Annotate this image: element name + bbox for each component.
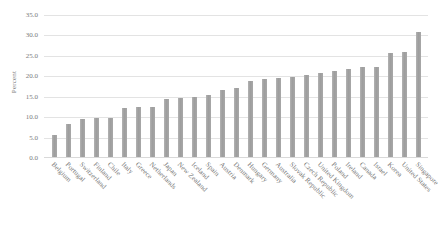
x-label-slot: New Zealand — [173, 160, 187, 235]
bar-slot — [201, 15, 215, 157]
y-axis-tick-label: 0.0 — [29, 154, 38, 162]
bar-slot — [355, 15, 369, 157]
x-label-slot: Poland — [327, 160, 341, 235]
bar-slot — [271, 15, 285, 157]
x-label-slot: Chile — [103, 160, 117, 235]
x-label-slot: Korea — [383, 160, 397, 235]
bar[interactable] — [150, 107, 155, 157]
bar[interactable] — [136, 107, 141, 157]
bar[interactable] — [318, 73, 323, 157]
x-label-slot: United Kingdom — [313, 160, 327, 235]
x-label-slot: Italy — [117, 160, 131, 235]
x-label-slot: Hungary — [243, 160, 257, 235]
bar[interactable] — [374, 67, 379, 157]
bar-slot — [397, 15, 411, 157]
bar-slot — [173, 15, 187, 157]
bar[interactable] — [388, 53, 393, 157]
bar-slot — [117, 15, 131, 157]
x-label-slot: Canada — [355, 160, 369, 235]
bar[interactable] — [178, 98, 183, 157]
bar-slot — [131, 15, 145, 157]
bar-slot — [369, 15, 383, 157]
bar-slot — [243, 15, 257, 157]
x-label-slot: Greece — [131, 160, 145, 235]
bar[interactable] — [108, 118, 113, 157]
bar[interactable] — [52, 135, 57, 157]
bar[interactable] — [304, 75, 309, 157]
plot-area — [44, 15, 428, 158]
bar-slot — [47, 15, 61, 157]
bar[interactable] — [402, 52, 407, 157]
x-label-slot: Belgium — [47, 160, 61, 235]
y-axis-tick-label: 35.0 — [26, 11, 38, 19]
y-axis-tick-label: 10.0 — [26, 113, 38, 121]
bar[interactable] — [360, 67, 365, 157]
bar[interactable] — [94, 118, 99, 157]
y-axis-tick-labels: 35.030.025.020.015.010.05.00.0 — [0, 0, 40, 235]
x-label-slot: Spain — [201, 160, 215, 235]
bar-slot — [285, 15, 299, 157]
bar-slot — [327, 15, 341, 157]
bar[interactable] — [332, 71, 337, 157]
y-axis-tick-label: 20.0 — [26, 72, 38, 80]
x-label-slot: Iceland — [187, 160, 201, 235]
bar-slot — [383, 15, 397, 157]
bar-slot — [229, 15, 243, 157]
x-label-slot: Finland — [89, 160, 103, 235]
y-axis-tick-label: 25.0 — [26, 52, 38, 60]
bar[interactable] — [262, 79, 267, 157]
bar[interactable] — [122, 108, 127, 157]
bar-slot — [215, 15, 229, 157]
x-label-slot: Slovak Republic — [285, 160, 299, 235]
x-label-slot: United States — [397, 160, 411, 235]
bar[interactable] — [248, 81, 253, 157]
x-label-slot: Ireland — [341, 160, 355, 235]
x-label-slot: Netherlands — [145, 160, 159, 235]
bar-slot — [257, 15, 271, 157]
bar[interactable] — [66, 124, 71, 157]
bar[interactable] — [80, 119, 85, 157]
x-label-slot: Austria — [215, 160, 229, 235]
bar[interactable] — [206, 95, 211, 158]
y-axis-tick-label: 30.0 — [26, 31, 38, 39]
x-label-slot: Czech Republic — [299, 160, 313, 235]
bar[interactable] — [234, 88, 239, 157]
bar-slot — [411, 15, 425, 157]
bar[interactable] — [416, 32, 421, 157]
bar-series — [44, 15, 428, 157]
bar-slot — [341, 15, 355, 157]
x-label-slot: Singapore — [411, 160, 425, 235]
bar-slot — [145, 15, 159, 157]
bar-slot — [313, 15, 327, 157]
bar[interactable] — [192, 97, 197, 157]
bar-slot — [103, 15, 117, 157]
x-label-slot: Denmark — [229, 160, 243, 235]
x-label-slot: Switzerland — [75, 160, 89, 235]
bar[interactable] — [276, 78, 281, 157]
bar[interactable] — [164, 99, 169, 157]
x-axis-line — [44, 157, 428, 158]
bar-slot — [299, 15, 313, 157]
y-axis-tick-label: 15.0 — [26, 93, 38, 101]
x-label-slot: Japan — [159, 160, 173, 235]
x-label-slot: Israel — [369, 160, 383, 235]
bar-slot — [61, 15, 75, 157]
bar-slot — [159, 15, 173, 157]
bar[interactable] — [346, 69, 351, 157]
bar[interactable] — [220, 90, 225, 157]
x-label-slot: Australia — [271, 160, 285, 235]
x-axis-tick-labels: BelgiumPortugalSwitzerlandFinlandChileIt… — [44, 160, 428, 235]
x-label-slot: Portugal — [61, 160, 75, 235]
bar-slot — [75, 15, 89, 157]
bar-slot — [89, 15, 103, 157]
bar[interactable] — [290, 77, 295, 157]
y-axis-tick-label: 5.0 — [29, 134, 38, 142]
bar-slot — [187, 15, 201, 157]
x-label-slot: Germany — [257, 160, 271, 235]
